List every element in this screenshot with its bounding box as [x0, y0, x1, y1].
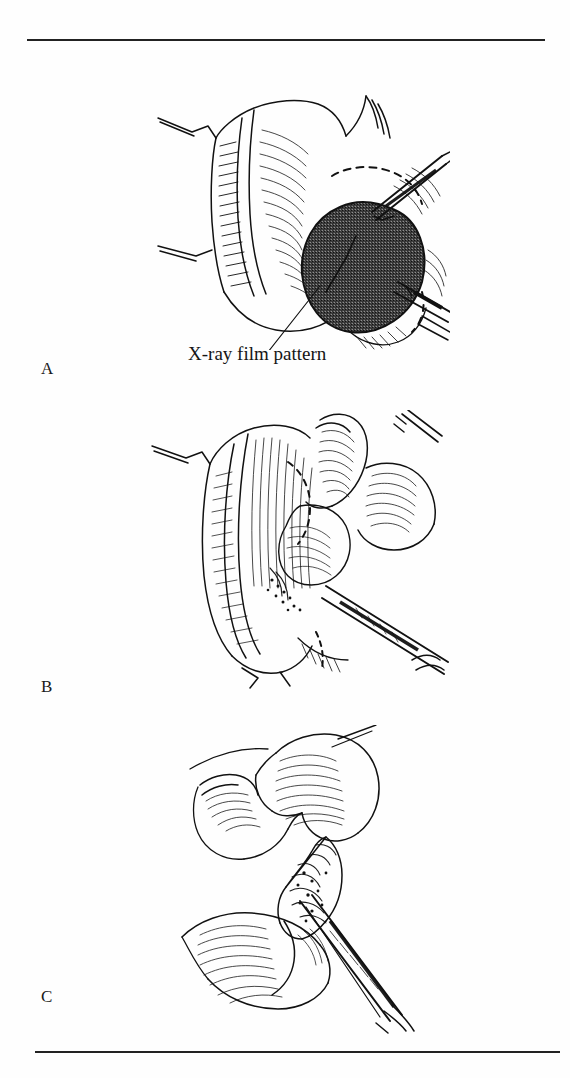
top-rule — [27, 39, 545, 41]
panel-a-illustration — [150, 60, 450, 350]
bottom-rule — [35, 1051, 560, 1053]
panel-b-illustration — [150, 410, 450, 690]
panel-c-illustration — [180, 725, 440, 1035]
panel-letter-b: B — [41, 678, 53, 695]
panel-letter-a: A — [41, 360, 54, 377]
illustration-plate: A X-ray film pattern — [0, 0, 570, 1078]
annotation-xray-film-pattern: X-ray film pattern — [188, 344, 326, 365]
panel-letter-c: C — [41, 988, 53, 1005]
